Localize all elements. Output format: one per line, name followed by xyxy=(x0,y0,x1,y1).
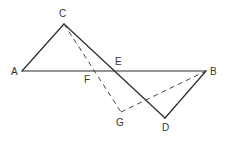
segment-AC xyxy=(22,24,64,71)
point-label-C: C xyxy=(59,8,66,19)
segment-GB-dashed xyxy=(121,71,206,112)
geometry-figure: A B C D E F G xyxy=(0,0,227,141)
point-label-E: E xyxy=(115,56,122,67)
point-label-A: A xyxy=(11,66,18,77)
point-label-F: F xyxy=(84,74,90,85)
point-label-D: D xyxy=(162,122,169,133)
point-label-B: B xyxy=(210,66,217,77)
segment-DB xyxy=(165,71,206,118)
point-label-G: G xyxy=(116,117,124,128)
segment-CG-dashed xyxy=(64,24,121,112)
